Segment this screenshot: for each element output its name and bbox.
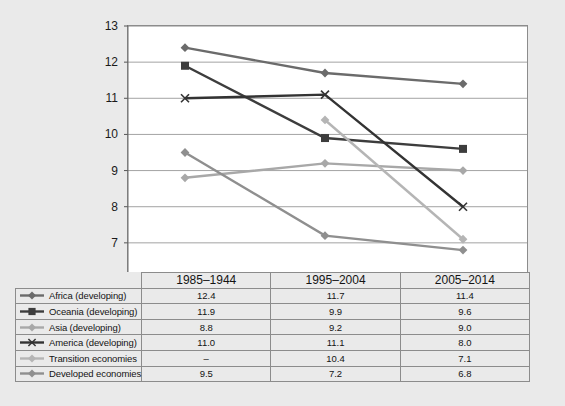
data-point-marker [459, 246, 468, 255]
table-column-header-2: 1995–2004 [271, 273, 400, 289]
y-axis-tick-label: 8 [96, 201, 118, 213]
table-cell-3: 9.6 [400, 304, 529, 320]
table-cell-2: 9.9 [271, 304, 400, 320]
table-row: Oceania (developing)11.99.99.6 [16, 304, 530, 320]
data-point-marker [321, 134, 329, 142]
legend-marker-icon [19, 353, 45, 364]
legend-cell: Africa (developing) [16, 288, 142, 304]
table-row: Developed economies9.57.26.8 [16, 366, 530, 382]
table-row: Africa (developing)12.411.711.4 [16, 288, 530, 304]
table-row: Transition economies–10.47.1 [16, 350, 530, 366]
legend-marker-icon [19, 306, 45, 317]
y-axis-tick-label: 7 [96, 237, 118, 249]
legend-marker-icon [19, 290, 45, 301]
table-row: Asia (developing)8.89.29.0 [16, 319, 530, 335]
table-cell-2: 10.4 [271, 350, 400, 366]
y-axis-tick-label: 9 [96, 165, 118, 177]
data-point-marker [181, 173, 190, 182]
series-line [185, 95, 463, 207]
series-4 [181, 91, 467, 211]
legend-label: Transition economies [49, 353, 137, 364]
table-cell-1: 9.5 [142, 366, 271, 382]
table-cell-2: 7.2 [271, 366, 400, 382]
data-point-marker [459, 166, 468, 175]
legend-cell: Oceania (developing) [16, 304, 142, 320]
legend-cell: Asia (developing) [16, 319, 142, 335]
legend-cell: America (developing) [16, 335, 142, 351]
data-point-marker [459, 145, 467, 153]
data-point-marker [181, 62, 189, 70]
series-line [325, 120, 463, 239]
series-1 [181, 43, 468, 88]
legend-label: Africa (developing) [49, 290, 126, 301]
table-column-header-1: 1985–1944 [142, 273, 271, 289]
data-table: 1985–19441995–20042005–2014 Africa (deve… [15, 272, 530, 382]
data-point-marker [181, 43, 190, 52]
legend-marker-icon [19, 322, 45, 333]
chart-page: 678910111213 1985–19441995–20042005–2014… [0, 0, 565, 406]
table-cell-1: 11.0 [142, 335, 271, 351]
table-row: America (developing)11.011.18.0 [16, 335, 530, 351]
table-cell-3: 8.0 [400, 335, 529, 351]
table-cell-3: 6.8 [400, 366, 529, 382]
table-cell-1: – [142, 350, 271, 366]
y-axis-tick-label: 11 [96, 92, 118, 104]
table-column-header-3: 2005–2014 [400, 273, 529, 289]
table-cell-2: 11.7 [271, 288, 400, 304]
data-point-marker [321, 159, 330, 168]
table-cell-1: 12.4 [142, 288, 271, 304]
series-layer [181, 43, 468, 254]
y-axis-tick-label: 13 [96, 20, 118, 32]
legend-label: Developed economies [49, 368, 141, 379]
legend-label: America (developing) [49, 337, 137, 348]
legend-label: Oceania (developing) [49, 306, 137, 317]
table-cell-1: 11.9 [142, 304, 271, 320]
legend-label: Asia (developing) [49, 322, 121, 333]
table-cell-3: 11.4 [400, 288, 529, 304]
legend-cell: Transition economies [16, 350, 142, 366]
data-point-marker [321, 69, 330, 78]
table-cell-2: 9.2 [271, 319, 400, 335]
y-axis-tick-label: 12 [96, 56, 118, 68]
table-cell-3: 7.1 [400, 350, 529, 366]
y-axis-tick-label: 10 [96, 128, 118, 140]
table-cell-1: 8.8 [142, 319, 271, 335]
table-cell-2: 11.1 [271, 335, 400, 351]
table-cell-3: 9.0 [400, 319, 529, 335]
series-line [185, 48, 463, 84]
legend-marker-icon [19, 337, 45, 348]
table-header-row: 1985–19441995–20042005–2014 [16, 273, 530, 289]
table-body: Africa (developing)12.411.711.4Oceania (… [16, 288, 530, 382]
table-header-blank [16, 273, 142, 289]
data-point-marker [459, 79, 468, 88]
legend-marker-icon [19, 368, 45, 379]
legend-cell: Developed economies [16, 366, 142, 382]
